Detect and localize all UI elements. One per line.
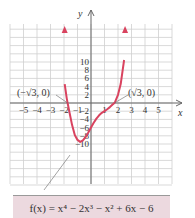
svg-text:4: 4 xyxy=(143,105,148,115)
svg-text:2: 2 xyxy=(85,90,90,100)
formula-text: f(x) = x⁴ − 2x³ − x² + 6x − 6 xyxy=(30,202,154,214)
svg-text:−4: −4 xyxy=(32,105,42,115)
svg-text:3: 3 xyxy=(129,105,134,115)
svg-text:(−√3, 0): (−√3, 0) xyxy=(17,87,50,99)
svg-text:5: 5 xyxy=(156,105,161,115)
svg-text:(√3, 0): (√3, 0) xyxy=(128,87,155,99)
formula-label: f(x) = x⁴ − 2x³ − x² + 6x − 6 xyxy=(13,195,170,218)
svg-text:2: 2 xyxy=(116,105,121,115)
function-graph: yx −5−4−3−2−112345108642−2−4−6−8−10 (−√3… xyxy=(0,0,195,218)
svg-text:x: x xyxy=(177,107,183,118)
svg-text:−3: −3 xyxy=(46,105,56,115)
svg-text:−5: −5 xyxy=(19,105,29,115)
svg-text:y: y xyxy=(77,8,83,19)
